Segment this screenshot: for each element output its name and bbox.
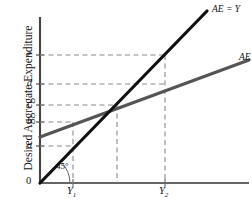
angle-annotation-label: 45° (56, 162, 69, 171)
x-tick-label-y2: Y2 (159, 186, 168, 199)
x-tick-label-y1-sub: 1 (73, 191, 77, 199)
forty-five-degree-line (40, 11, 207, 183)
series-label-forty-five-line: AE = Y (212, 5, 240, 15)
x-tick-label-y2-sub: 2 (165, 191, 169, 199)
y-tick-label-d: d (27, 78, 32, 88)
y-tick-label-c: c (27, 99, 31, 109)
chart-plot-area (0, 0, 252, 208)
y-tick-label-b: b (27, 116, 32, 126)
series-label-ae-curve: AE (239, 53, 251, 63)
ae-curve-line (40, 60, 249, 137)
chart-figure: Desired Aggregate Expenditure e d (0, 0, 252, 208)
y-tick-label-origin: 0 (26, 176, 31, 187)
x-tick-label-y1: Y1 (67, 186, 76, 199)
y-tick-label-e: e (27, 49, 31, 59)
y-tick-label-a: a (27, 140, 32, 150)
